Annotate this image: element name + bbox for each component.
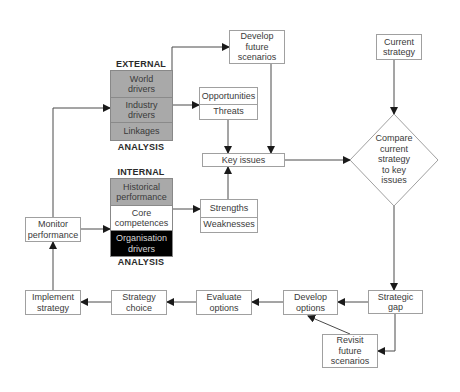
monitor-performance-node: Monitor performance bbox=[25, 217, 81, 242]
edge-revisit-to-develop bbox=[308, 316, 350, 334]
external-analysis-stack: World drivers Industry drivers Linkages bbox=[110, 70, 173, 141]
develop-future-scenarios-node: Develop future scenarios bbox=[229, 30, 285, 64]
linkages: Linkages bbox=[111, 123, 172, 140]
develop-options-node: Develop options bbox=[283, 290, 338, 315]
historical-performance: Historical performance bbox=[111, 179, 172, 206]
opportunities-threats-node: Opportunities Threats bbox=[199, 87, 258, 120]
organisation-drivers: Organisation drivers bbox=[111, 231, 172, 256]
implement-strategy-node: Implement strategy bbox=[25, 290, 81, 315]
current-strategy-node: Current strategy bbox=[376, 34, 422, 60]
threats-label: Threats bbox=[200, 104, 257, 119]
evaluate-options-node: Evaluate options bbox=[196, 290, 252, 315]
internal-header: INTERNAL bbox=[101, 167, 181, 177]
strengths-label: Strengths bbox=[201, 200, 257, 218]
external-header: EXTERNAL bbox=[101, 59, 181, 69]
revisit-future-scenarios-node: Revisit future scenarios bbox=[322, 334, 378, 368]
core-competences: Core competences bbox=[111, 206, 172, 231]
industry-drivers: Industry drivers bbox=[111, 98, 172, 123]
compare-decision-label: Compare current strategy to key issues bbox=[364, 133, 424, 186]
strategic-gap-node: Strategic gap bbox=[368, 290, 423, 314]
weaknesses-label: Weaknesses bbox=[201, 217, 257, 232]
edge-gap-to-revisit bbox=[378, 314, 395, 351]
world-drivers: World drivers bbox=[111, 71, 172, 98]
strategy-choice-node: Strategy choice bbox=[111, 290, 167, 315]
opportunities-label: Opportunities bbox=[200, 88, 257, 105]
external-footer: ANALYSIS bbox=[101, 142, 181, 152]
key-issues-node: Key issues bbox=[202, 153, 285, 167]
strengths-weaknesses-node: Strengths Weaknesses bbox=[200, 199, 258, 233]
edge-monitor-to-industry bbox=[53, 108, 110, 217]
internal-footer: ANALYSIS bbox=[101, 257, 181, 267]
internal-analysis-stack: Historical performance Core competences … bbox=[110, 178, 173, 257]
